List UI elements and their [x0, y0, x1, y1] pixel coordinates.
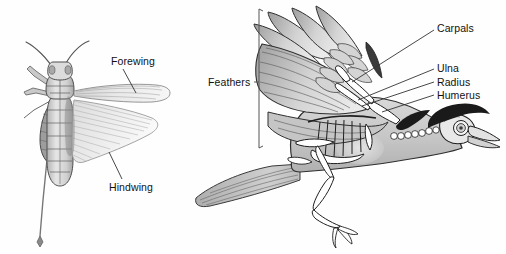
label-carpals: Carpals: [437, 23, 474, 34]
label-radius: Radius: [437, 77, 470, 88]
label-hindwing: Hindwing: [109, 182, 153, 193]
label-humerus: Humerus: [437, 90, 480, 101]
eye-socket: [454, 121, 469, 136]
label-forewing: Forewing: [111, 56, 155, 67]
anatomy-illustration: [0, 0, 506, 254]
label-feathers: Feathers: [208, 77, 250, 88]
label-ulna: Ulna: [437, 63, 459, 74]
figure-canvas: Forewing Hindwing Feathers Carpals Ulna …: [0, 0, 506, 254]
